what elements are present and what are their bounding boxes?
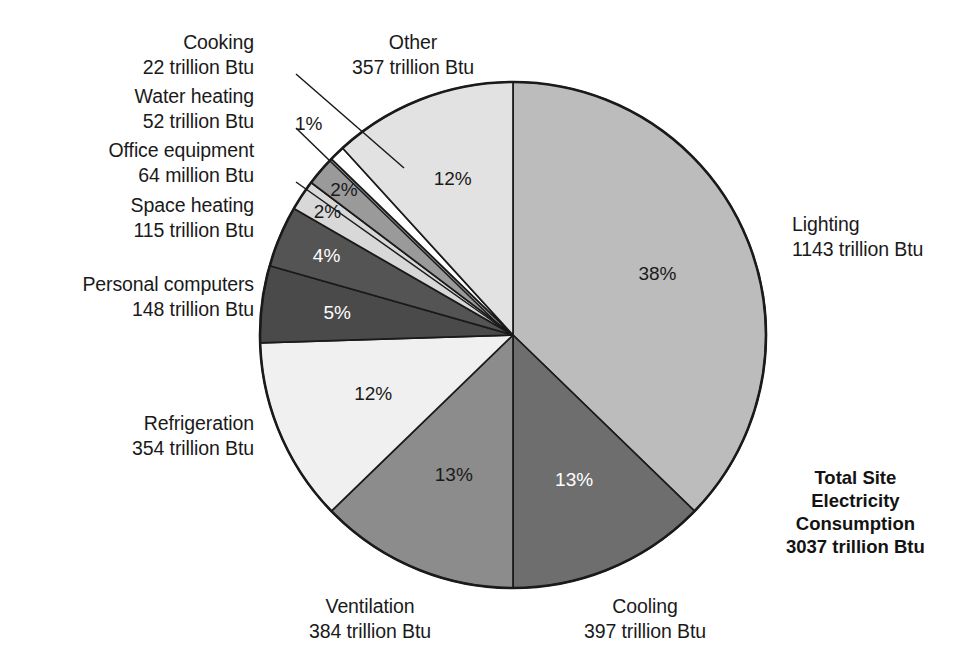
slice-percent-water-heating: 2% bbox=[330, 179, 358, 200]
label-space-heating-name: Space heating bbox=[131, 193, 254, 218]
label-office-equipment: Office equipment 64 million Btu bbox=[109, 138, 254, 188]
slice-percent-other: 12% bbox=[434, 168, 472, 189]
label-cooling-name: Cooling bbox=[584, 594, 706, 619]
slice-percent-space-heating: 4% bbox=[313, 245, 341, 266]
label-water-heating: Water heating 52 trillion Btu bbox=[135, 84, 254, 134]
label-lighting-value: 1143 trillion Btu bbox=[792, 237, 923, 262]
label-refrigeration-value: 354 trillion Btu bbox=[132, 436, 254, 461]
label-personal-computers-value: 148 trillion Btu bbox=[82, 297, 254, 322]
label-refrigeration-name: Refrigeration bbox=[132, 411, 254, 436]
slice-percent-refrigeration: 12% bbox=[354, 383, 392, 404]
label-other: Other 357 trillion Btu bbox=[352, 30, 474, 80]
slice-percent-cooking: 1% bbox=[295, 113, 323, 134]
total-line-1: Total Site bbox=[786, 466, 925, 489]
label-lighting-name: Lighting bbox=[792, 212, 923, 237]
label-refrigeration: Refrigeration 354 trillion Btu bbox=[132, 411, 254, 461]
label-water-heating-name: Water heating bbox=[135, 84, 254, 109]
label-office-equipment-value: 64 million Btu bbox=[109, 163, 254, 188]
label-space-heating: Space heating 115 trillion Btu bbox=[131, 193, 254, 243]
label-lighting: Lighting 1143 trillion Btu bbox=[792, 212, 923, 262]
label-cooking: Cooking 22 trillion Btu bbox=[143, 30, 254, 80]
label-space-heating-value: 115 trillion Btu bbox=[131, 218, 254, 243]
pie-chart-figure: Lighting — 1143 trillion Btu (38%)Coolin… bbox=[0, 0, 977, 655]
total-consumption-annotation: Total Site Electricity Consumption 3037 … bbox=[786, 466, 925, 558]
label-personal-computers: Personal computers 148 trillion Btu bbox=[82, 272, 254, 322]
pie-slices-group: Lighting — 1143 trillion Btu (38%)Coolin… bbox=[260, 82, 766, 588]
slice-percent-lighting: 38% bbox=[638, 263, 676, 284]
slice-percent-personal-computers: 5% bbox=[323, 302, 351, 323]
label-other-name: Other bbox=[352, 30, 474, 55]
label-ventilation-name: Ventilation bbox=[309, 594, 431, 619]
label-cooling: Cooling 397 trillion Btu bbox=[584, 594, 706, 644]
label-ventilation-value: 384 trillion Btu bbox=[309, 619, 431, 644]
slice-percent-office-equipment: 2% bbox=[314, 201, 342, 222]
label-other-value: 357 trillion Btu bbox=[352, 55, 474, 80]
label-ventilation: Ventilation 384 trillion Btu bbox=[309, 594, 431, 644]
label-office-equipment-name: Office equipment bbox=[109, 138, 254, 163]
label-water-heating-value: 52 trillion Btu bbox=[135, 109, 254, 134]
total-line-4: 3037 trillion Btu bbox=[786, 535, 925, 558]
total-line-3: Consumption bbox=[786, 512, 925, 535]
label-cooking-name: Cooking bbox=[143, 30, 254, 55]
label-personal-computers-name: Personal computers bbox=[82, 272, 254, 297]
label-cooking-value: 22 trillion Btu bbox=[143, 55, 254, 80]
slice-percent-ventilation: 13% bbox=[435, 464, 473, 485]
label-cooling-value: 397 trillion Btu bbox=[584, 619, 706, 644]
total-line-2: Electricity bbox=[786, 489, 925, 512]
slice-percent-cooling: 13% bbox=[555, 469, 593, 490]
